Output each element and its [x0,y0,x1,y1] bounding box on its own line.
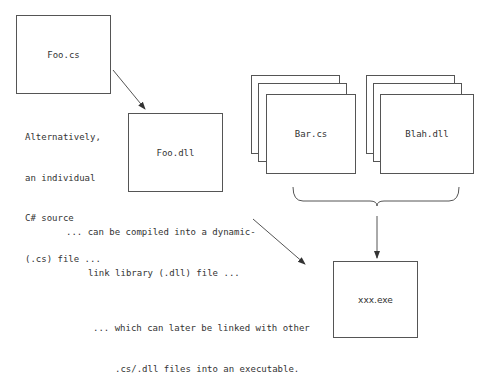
file-label: Blah.dll [381,129,473,139]
note-line: .cs/.dll files into an executable. [93,363,310,377]
note-linked-executable: ... which can later be linked with other… [93,295,310,377]
file-label: Bar.cs [267,129,355,139]
note-line: Alternatively, [25,131,101,145]
note-line: an individual [25,172,101,186]
arrow-foo-cs-to-foo-dll [113,70,145,109]
note-line: ... which can later be linked with other [93,322,310,336]
file-label: xxx.exe [334,294,417,304]
note-compiled-dll: ... can be compiled into a dynamic- link… [66,199,256,307]
note-line: link library (.dll) file ... [66,267,256,281]
file-box-bar-cs: Bar.cs [266,94,356,174]
file-box-xxx-exe: xxx.exe [333,261,418,338]
arrow-dll-to-exe [253,219,305,264]
file-box-foo-dll: Foo.dll [128,113,223,192]
note-line: ... can be compiled into a dynamic- [66,226,256,240]
file-box-foo-cs: Foo.cs [16,15,111,94]
file-label: Foo.dll [129,147,222,157]
file-box-blah-dll: Blah.dll [380,94,474,174]
grouping-brace [293,187,459,206]
file-label: Foo.cs [17,49,110,59]
